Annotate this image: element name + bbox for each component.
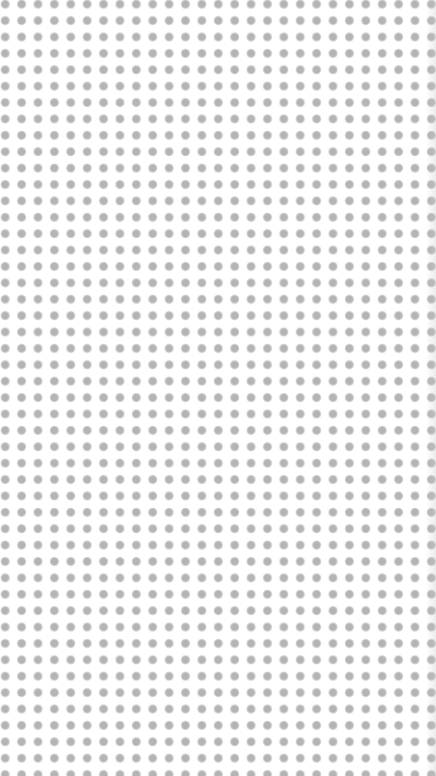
right-edge-shade (426, 0, 436, 776)
dot-grid-pattern: dot-grid (0, 0, 436, 776)
